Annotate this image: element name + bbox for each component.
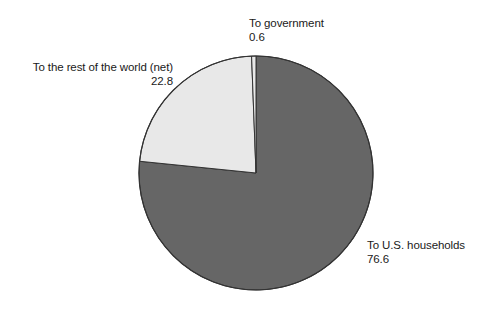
- slice-label-rest-of-world-value: 22.8: [29, 75, 173, 89]
- slice-label-rest-of-world-name: To the rest of the world (net): [33, 61, 173, 73]
- chart-page: To government 0.6 To the rest of the wor…: [0, 0, 486, 312]
- slice-label-government-value: 0.6: [249, 31, 324, 45]
- slice-label-us-households-value: 76.6: [367, 253, 465, 267]
- pie-slices: [139, 56, 373, 290]
- slice-label-us-households: To U.S. households 76.6: [367, 239, 465, 266]
- slice-label-government-name: To government: [249, 17, 324, 29]
- slice-label-rest-of-world: To the rest of the world (net) 22.8: [29, 61, 173, 88]
- slice-label-government: To government 0.6: [249, 17, 324, 44]
- slice-label-us-households-name: To U.S. households: [367, 239, 465, 251]
